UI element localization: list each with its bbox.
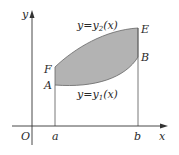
y-axis-label: y — [21, 8, 29, 21]
point-label-A: A — [43, 79, 52, 92]
x-axis-label: x — [159, 130, 166, 143]
tick-label-b: b — [134, 130, 141, 143]
point-label-E: E — [140, 23, 149, 36]
region-diagram: y x O a b F A E B y=y2(x) y=y1(x) — [0, 0, 179, 155]
shaded-region — [55, 28, 138, 86]
origin-label: O — [21, 130, 30, 143]
point-label-F: F — [43, 63, 52, 76]
tick-label-a: a — [52, 130, 59, 143]
y-axis-arrow-icon — [30, 10, 35, 18]
point-label-B: B — [140, 51, 149, 64]
lower-curve-label: y=y1(x) — [76, 88, 118, 102]
x-axis-arrow-icon — [160, 124, 168, 129]
upper-curve-label: y=y2(x) — [76, 19, 118, 33]
